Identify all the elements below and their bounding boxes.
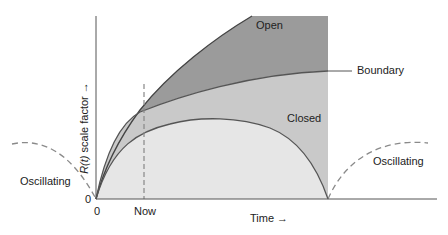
y-zero-tick: 0 xyxy=(85,194,91,205)
oscillating-right-label: Oscillating xyxy=(373,156,424,167)
now-tick-label: Now xyxy=(134,206,156,217)
boundary-label: Boundary xyxy=(357,65,404,76)
oscillating-right-arc xyxy=(328,142,428,199)
x-axis-label: Time → xyxy=(250,213,288,224)
closed-label: Closed xyxy=(287,113,321,124)
y-axis-label-text: scale factor → xyxy=(78,82,90,155)
open-label: Open xyxy=(256,20,283,31)
oscillating-left-label: Oscillating xyxy=(20,176,71,187)
x-zero-tick: 0 xyxy=(94,206,100,217)
diagram-canvas xyxy=(0,0,448,235)
y-axis-label-symbol: R(t) xyxy=(78,156,90,174)
y-axis-label: R(t) scale factor → xyxy=(79,82,90,174)
